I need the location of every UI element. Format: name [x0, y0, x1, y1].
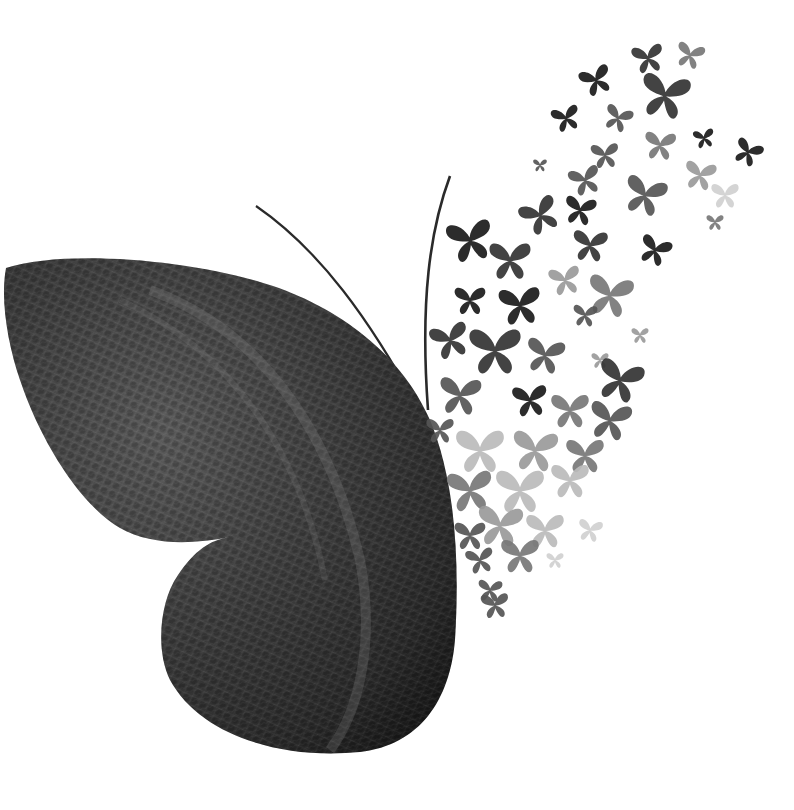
small-butterfly [455, 523, 486, 549]
small-butterfly [620, 174, 669, 219]
small-butterfly [524, 337, 567, 375]
small-butterfly [674, 41, 706, 71]
small-butterfly [490, 244, 531, 279]
small-butterfly [643, 131, 676, 160]
small-butterfly [590, 143, 619, 169]
small-butterfly [730, 136, 765, 169]
small-butterfly [512, 385, 549, 417]
small-butterfly [631, 43, 666, 74]
butterfly-artwork [0, 0, 794, 810]
small-butterfly [511, 430, 558, 472]
small-butterfly [456, 431, 504, 472]
small-butterfly [551, 395, 589, 427]
small-butterfly [562, 195, 597, 226]
small-butterfly [517, 193, 565, 238]
small-butterfly [446, 470, 493, 512]
small-butterfly [438, 377, 482, 416]
small-butterfly [501, 540, 539, 572]
small-butterfly [711, 184, 738, 207]
small-butterfly [636, 233, 674, 268]
butterfly-swarm [426, 41, 765, 619]
small-butterfly [496, 471, 544, 512]
small-butterfly [469, 329, 520, 373]
small-butterfly [638, 72, 692, 121]
small-butterfly [693, 128, 716, 149]
small-butterfly [572, 230, 609, 262]
small-butterfly [550, 104, 582, 134]
small-butterfly [706, 215, 723, 230]
leather-wing [4, 258, 457, 753]
small-butterfly [533, 160, 547, 172]
small-butterfly [631, 328, 648, 343]
small-butterfly [428, 321, 473, 362]
antenna-right [425, 176, 450, 410]
small-butterfly [445, 219, 495, 264]
small-butterfly [465, 547, 496, 575]
small-butterfly [455, 288, 486, 314]
small-butterfly [551, 465, 589, 497]
small-butterfly [546, 553, 563, 568]
small-butterfly [572, 304, 598, 327]
small-butterfly [601, 103, 635, 134]
small-butterfly [567, 164, 603, 197]
small-butterfly [548, 265, 583, 296]
small-butterfly [577, 63, 615, 98]
small-butterfly [576, 519, 603, 543]
small-butterfly [587, 400, 633, 442]
small-butterfly [498, 287, 542, 326]
